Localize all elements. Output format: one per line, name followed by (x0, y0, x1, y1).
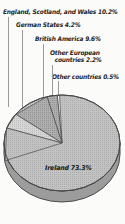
slice-label-other-european-line2: countries 2.2% (50, 56, 102, 63)
pie-graphic (0, 84, 125, 224)
pie-chart-figure: England, Scotland, and Wales 10.2% Germa… (0, 0, 125, 224)
slice-label-british-america: British America 9.6% (35, 35, 101, 42)
slice-label-german-states: German States 4.2% (16, 21, 80, 28)
slice-label-other-countries: Other countries 0.5% (52, 73, 119, 80)
slice-label-other-european-line1: Other European (50, 49, 100, 56)
slice-label-other-european-countries: Other Europeancountries 2.2% (50, 49, 102, 64)
slice-label-ireland: Ireland 73.3% (45, 164, 92, 172)
pie-svg (0, 84, 125, 224)
slice-label-england-scotland-wales: England, Scotland, and Wales 10.2% (3, 8, 118, 15)
